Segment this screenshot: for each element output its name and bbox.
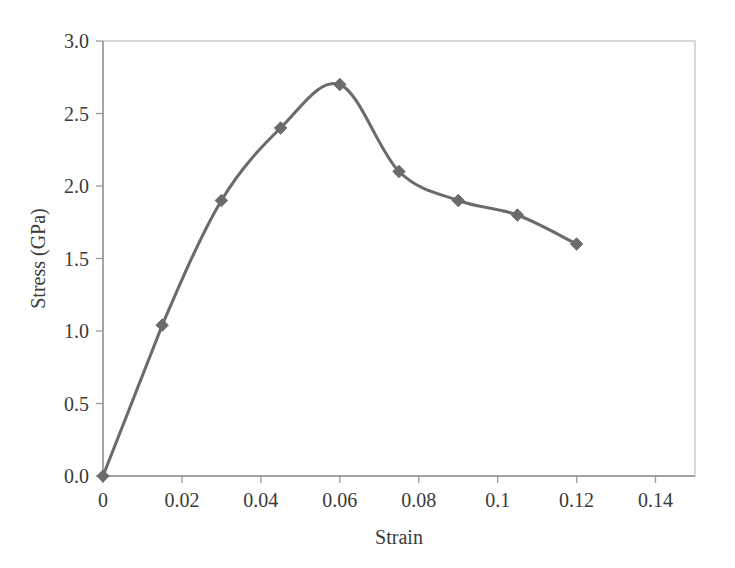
x-tick-label: 0 <box>98 489 108 511</box>
y-tick-label: 0.5 <box>64 393 89 415</box>
y-tick-label: 0.0 <box>64 465 89 487</box>
y-tick-label: 3.0 <box>64 30 89 52</box>
x-axis-title: Strain <box>375 526 423 548</box>
x-tick-label: 0.02 <box>164 489 199 511</box>
x-tick-label: 0.12 <box>559 489 594 511</box>
y-tick-label: 2.5 <box>64 103 89 125</box>
y-tick-label: 2.0 <box>64 175 89 197</box>
x-tick-label: 0.04 <box>243 489 278 511</box>
x-tick-label: 0.1 <box>485 489 510 511</box>
x-tick-label: 0.08 <box>401 489 436 511</box>
y-tick-label: 1.5 <box>64 248 89 270</box>
x-tick-label: 0.06 <box>322 489 357 511</box>
chart-canvas: 0.00.51.01.52.02.53.0 00.020.040.060.080… <box>0 0 735 568</box>
y-axis-title: Stress (GPa) <box>27 208 50 309</box>
y-tick-label: 1.0 <box>64 320 89 342</box>
stress-strain-chart: 0.00.51.01.52.02.53.0 00.020.040.060.080… <box>0 0 735 568</box>
chart-background <box>0 0 735 568</box>
x-tick-label: 0.14 <box>638 489 673 511</box>
